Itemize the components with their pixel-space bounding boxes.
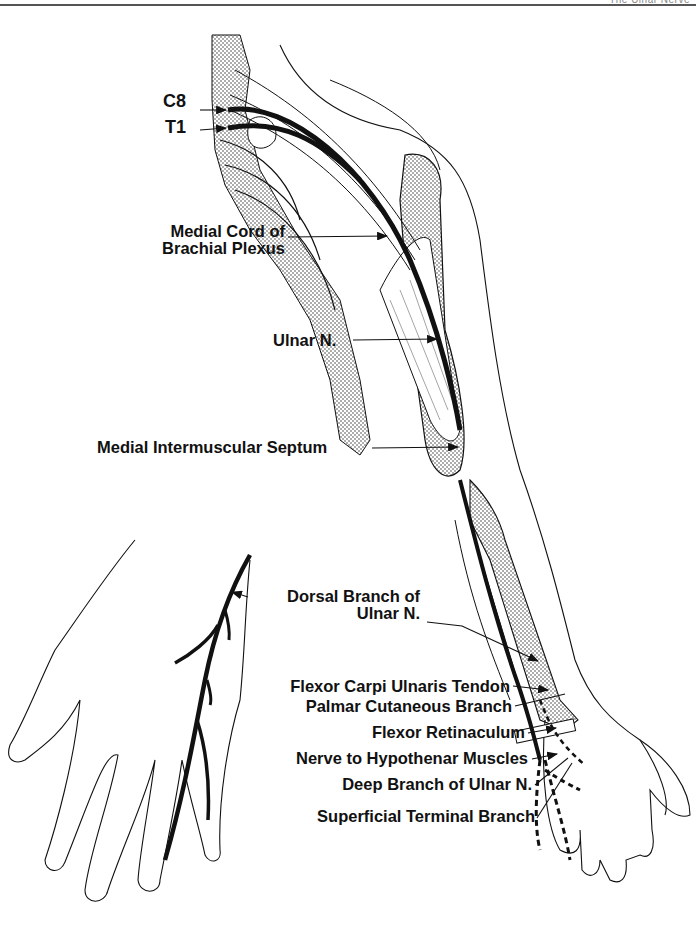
palmar-hand — [514, 719, 690, 882]
label-t1: T1 — [165, 119, 186, 136]
label-medial-cord: Medial Cord of Brachial Plexus — [140, 223, 285, 257]
label-ulnar-n: Ulnar N. — [273, 332, 336, 349]
label-nerve-hypothenar: Nerve to Hypothenar Muscles — [270, 750, 528, 767]
label-deep-branch: Deep Branch of Ulnar N. — [300, 776, 532, 793]
dorsal-hand — [9, 540, 250, 901]
label-superficial-terminal-branch: Superficial Terminal Branch — [270, 808, 535, 825]
label-palmar-cutaneous-branch: Palmar Cutaneous Branch — [260, 698, 512, 715]
label-c8: C8 — [163, 93, 186, 110]
label-medial-intermuscular-septum: Medial Intermuscular Septum — [97, 439, 327, 456]
label-dorsal-branch: Dorsal Branch of Ulnar N. — [250, 588, 420, 622]
label-flexor-retinaculum: Flexor Retinaculum — [300, 724, 525, 741]
label-fcu-tendon: Flexor Carpi Ulnaris Tendon — [260, 678, 510, 695]
